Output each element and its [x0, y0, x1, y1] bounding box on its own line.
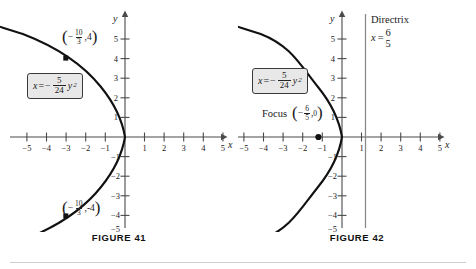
y-axis-label: y [112, 13, 118, 24]
x-axis-label: x [227, 139, 233, 150]
focus-label: Focus ( − 6 5 , 0 ) [262, 105, 323, 121]
svg-text:3: 3 [114, 73, 118, 83]
directrix-label: Directrix x = 6 5 [371, 14, 409, 49]
equation-sign: − [270, 76, 276, 86]
bottom-divider [10, 262, 466, 263]
point-x-sign: − [68, 203, 73, 213]
x-axis: −5 −4 −3 −2 −1 1 2 3 4 5 x [238, 133, 450, 154]
figure-42-caption: FIGURE 42 [238, 232, 476, 243]
paren-close: ) [92, 30, 98, 44]
svg-text:−5: −5 [22, 143, 31, 153]
point-y-value: -4 [87, 203, 95, 213]
svg-text:5: 5 [438, 143, 442, 153]
paren-close: ) [317, 106, 323, 120]
svg-text:−5: −5 [111, 224, 120, 233]
y-axis-label: y [329, 13, 335, 24]
svg-text:−2: −2 [298, 143, 307, 153]
svg-text:2: 2 [162, 143, 166, 153]
directrix-fraction: 6 5 [386, 27, 391, 49]
directrix-numerator: 6 [386, 27, 391, 38]
equation-denominator: 24 [278, 80, 291, 90]
point-x-fraction: 10 3 [74, 29, 84, 45]
equation-box: x = − 5 24 y 2 [27, 73, 83, 99]
directrix-equals: = [378, 32, 384, 44]
svg-text:−4: −4 [111, 210, 121, 220]
x-axis-label: x [444, 139, 450, 150]
figure-41: −5 −4 −3 −2 −1 1 2 3 4 5 x [0, 0, 238, 269]
svg-text:3: 3 [399, 143, 403, 153]
svg-text:4: 4 [114, 54, 119, 64]
svg-text:−1: −1 [318, 143, 327, 153]
directrix-lhs: x [371, 32, 376, 44]
svg-text:−3: −3 [111, 191, 120, 201]
equation-variable: y [68, 81, 72, 91]
svg-text:3: 3 [182, 143, 186, 153]
svg-text:−3: −3 [328, 191, 337, 201]
equation-numerator: 5 [55, 76, 64, 85]
svg-text:−4: −4 [328, 210, 338, 220]
equation-exponent: 2 [298, 77, 302, 84]
svg-text:−4: −4 [42, 143, 52, 153]
svg-text:−3: −3 [279, 143, 288, 153]
equation-fraction: 5 24 [278, 71, 291, 90]
focus-x-numerator: 6 [304, 105, 310, 113]
point-marker-upper [63, 56, 68, 61]
directrix-equation: x = 6 5 [371, 27, 409, 49]
figure-41-caption: FIGURE 41 [0, 232, 238, 243]
directrix-word: Directrix [371, 14, 409, 26]
svg-text:5: 5 [114, 34, 118, 44]
y-tick-labels: 5 4 3 2 1 −1 −2 −3 −4 −5 [328, 34, 338, 232]
equation-exponent: 2 [73, 82, 77, 89]
focus-x-denominator: 5 [304, 113, 310, 122]
equation-variable: y [293, 76, 297, 86]
point-x-numerator: 10 [74, 200, 84, 208]
point-label-lower: ( − 10 3 , -4 ) [62, 200, 101, 216]
equation-denominator: 24 [53, 85, 66, 95]
svg-text:4: 4 [331, 54, 336, 64]
svg-text:−3: −3 [62, 143, 71, 153]
point-x-fraction: 10 3 [74, 200, 84, 216]
figure-41-plot: −5 −4 −3 −2 −1 1 2 3 4 5 x [0, 0, 238, 232]
svg-text:−5: −5 [328, 224, 337, 233]
focus-x-fraction: 6 5 [304, 105, 310, 121]
focus-word: Focus [262, 108, 287, 119]
directrix-denominator: 5 [386, 38, 391, 49]
svg-text:4: 4 [418, 143, 423, 153]
svg-text:5: 5 [221, 143, 225, 153]
point-x-denominator: 3 [76, 37, 82, 46]
figure-pair: −5 −4 −3 −2 −1 1 2 3 4 5 x [0, 0, 476, 269]
equation-equals: = [263, 76, 269, 86]
svg-text:4: 4 [201, 143, 206, 153]
focus-x-sign: − [298, 108, 303, 118]
equation-sign: − [45, 81, 51, 91]
point-x-numerator: 10 [74, 29, 84, 37]
equation-lhs: x [33, 81, 37, 91]
svg-text:2: 2 [331, 93, 335, 103]
svg-text:−5: −5 [239, 143, 248, 153]
parabola-curve [238, 21, 342, 232]
svg-text:1: 1 [142, 143, 146, 153]
svg-text:2: 2 [114, 93, 118, 103]
figure-42: −5 −4 −3 −2 −1 1 2 3 4 5 x [238, 0, 476, 269]
svg-text:−2: −2 [81, 143, 90, 153]
equation-equals: = [38, 81, 44, 91]
equation-box: x = − 5 24 y 2 [252, 68, 308, 94]
paren-close: ) [95, 201, 101, 215]
svg-text:2: 2 [379, 143, 383, 153]
equation-fraction: 5 24 [53, 76, 66, 95]
point-x-sign: − [68, 32, 73, 42]
y-tick-labels: 5 4 3 2 1 −1 −2 −3 −4 −5 [111, 34, 121, 232]
svg-text:3: 3 [331, 73, 335, 83]
point-label-upper: ( − 10 3 , 4 ) [62, 29, 97, 45]
point-x-denominator: 3 [76, 208, 82, 217]
equation-lhs: x [258, 76, 262, 86]
svg-text:−1: −1 [101, 143, 110, 153]
svg-text:−4: −4 [259, 143, 269, 153]
focus-point-marker [315, 134, 321, 140]
svg-text:1: 1 [359, 143, 363, 153]
svg-text:5: 5 [331, 34, 335, 44]
equation-numerator: 5 [280, 71, 289, 80]
